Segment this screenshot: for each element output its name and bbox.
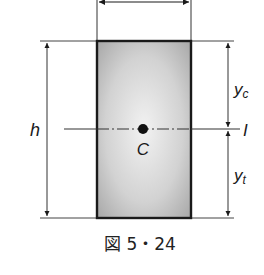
- centroid-dot: [138, 124, 148, 134]
- height-label: h: [30, 120, 40, 140]
- cross-section-diagram: C h yc yt I 図 5・24: [0, 0, 264, 275]
- width-dimension: [97, 0, 191, 41]
- moment-of-inertia-label: I: [243, 121, 248, 140]
- yc-label: yc: [233, 80, 249, 101]
- figure-caption: 図 5・24: [104, 234, 176, 254]
- centroid-label: C: [137, 140, 150, 159]
- yt-label: yt: [233, 166, 247, 187]
